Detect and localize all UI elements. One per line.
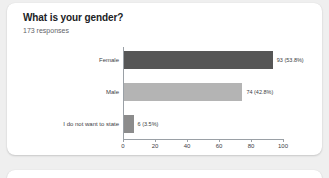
x-tick-label: 40 <box>184 143 191 149</box>
x-tick-label: 100 <box>278 143 288 149</box>
table-row: Female 93 (53.8%) <box>124 51 273 69</box>
x-tick <box>283 139 284 142</box>
x-tick-label: 20 <box>152 143 159 149</box>
bar-chart: Female 93 (53.8%) Male 74 (42.8%) I do n… <box>7 41 322 151</box>
bar-value-label-2: 6 (3.5%) <box>138 121 159 127</box>
x-tick <box>123 139 124 142</box>
category-label-0: Female <box>99 57 119 63</box>
table-row: Male 74 (42.8%) <box>124 83 242 101</box>
plot-area: Female 93 (53.8%) Male 74 (42.8%) I do n… <box>123 47 283 139</box>
x-axis-line <box>123 139 283 140</box>
bar-not-stated <box>124 115 134 133</box>
next-question-card <box>7 170 322 178</box>
x-tick <box>251 139 252 142</box>
table-row: I do not want to state 6 (3.5%) <box>124 115 134 133</box>
bar-value-label-0: 93 (53.8%) <box>277 57 304 63</box>
x-tick <box>187 139 188 142</box>
x-tick-label: 80 <box>248 143 255 149</box>
response-count: 173 responses <box>23 27 69 34</box>
category-label-1: Male <box>106 89 119 95</box>
x-tick-label: 0 <box>121 143 124 149</box>
bar-value-label-1: 74 (42.8%) <box>246 89 273 95</box>
question-card: What is your gender? 173 responses Femal… <box>7 3 322 155</box>
page-title: What is your gender? <box>23 12 123 23</box>
x-tick-label: 60 <box>216 143 223 149</box>
bar-female <box>124 51 273 69</box>
x-tick <box>155 139 156 142</box>
x-tick <box>219 139 220 142</box>
category-label-2: I do not want to state <box>63 121 119 127</box>
bar-male <box>124 83 242 101</box>
